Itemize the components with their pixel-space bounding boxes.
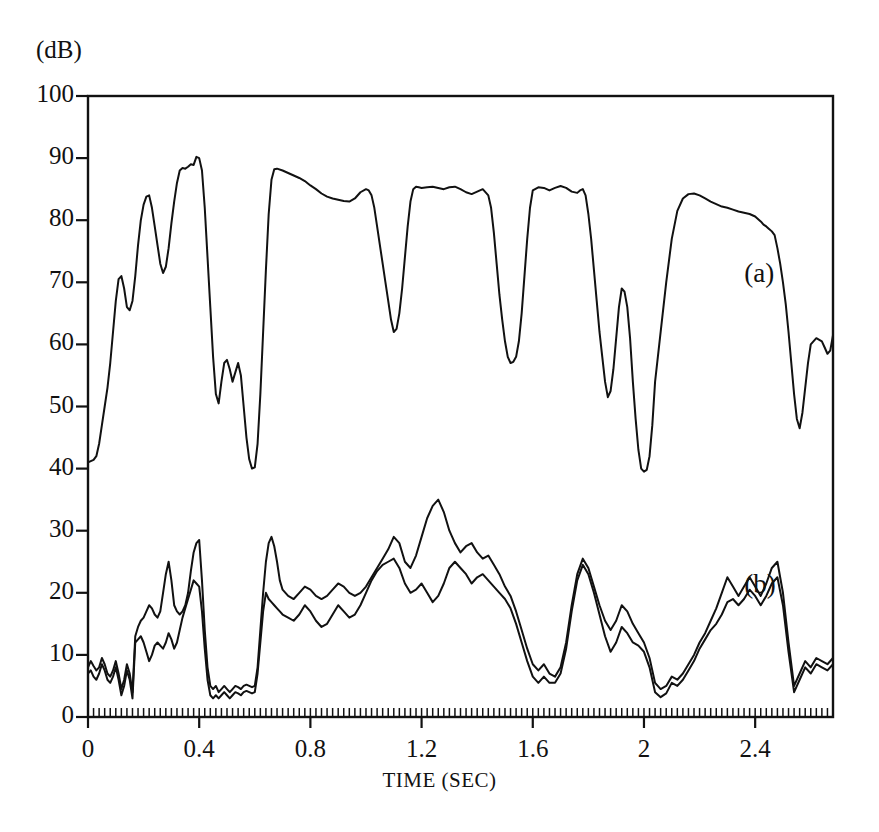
x-tick-label: 0.4 <box>159 735 239 763</box>
y-tick-label: 40 <box>4 453 74 481</box>
x-tick-label: 2 <box>604 735 684 763</box>
chart-canvas <box>0 0 879 832</box>
y-tick-label: 20 <box>4 577 74 605</box>
series-group <box>88 157 833 699</box>
y-tick-label: 10 <box>4 639 74 667</box>
y-tick-label: 60 <box>4 328 74 356</box>
x-tick-label: 2.4 <box>715 735 795 763</box>
x-tick-label: 0 <box>48 735 128 763</box>
data-series-3 <box>88 559 833 699</box>
y-tick-label: 50 <box>4 391 74 419</box>
x-tick-label: 0.8 <box>270 735 350 763</box>
y-tick-label: 100 <box>4 80 74 108</box>
x-tick-label: 1.2 <box>382 735 462 763</box>
ticks-group <box>76 96 827 728</box>
y-tick-label: 30 <box>4 515 74 543</box>
y-tick-label: 0 <box>4 701 74 729</box>
series-annotation-a: (a) <box>744 258 774 289</box>
figure-container: (dB) 0102030405060708090100 00.40.81.21.… <box>0 0 879 832</box>
x-axis-label: TIME (SEC) <box>0 768 879 793</box>
y-tick-label: 90 <box>4 142 74 170</box>
series-annotation-b: (b) <box>744 569 775 600</box>
x-tick-label: 1.6 <box>493 735 573 763</box>
data-series-1 <box>88 157 833 472</box>
y-tick-label: 80 <box>4 204 74 232</box>
y-tick-label: 70 <box>4 266 74 294</box>
